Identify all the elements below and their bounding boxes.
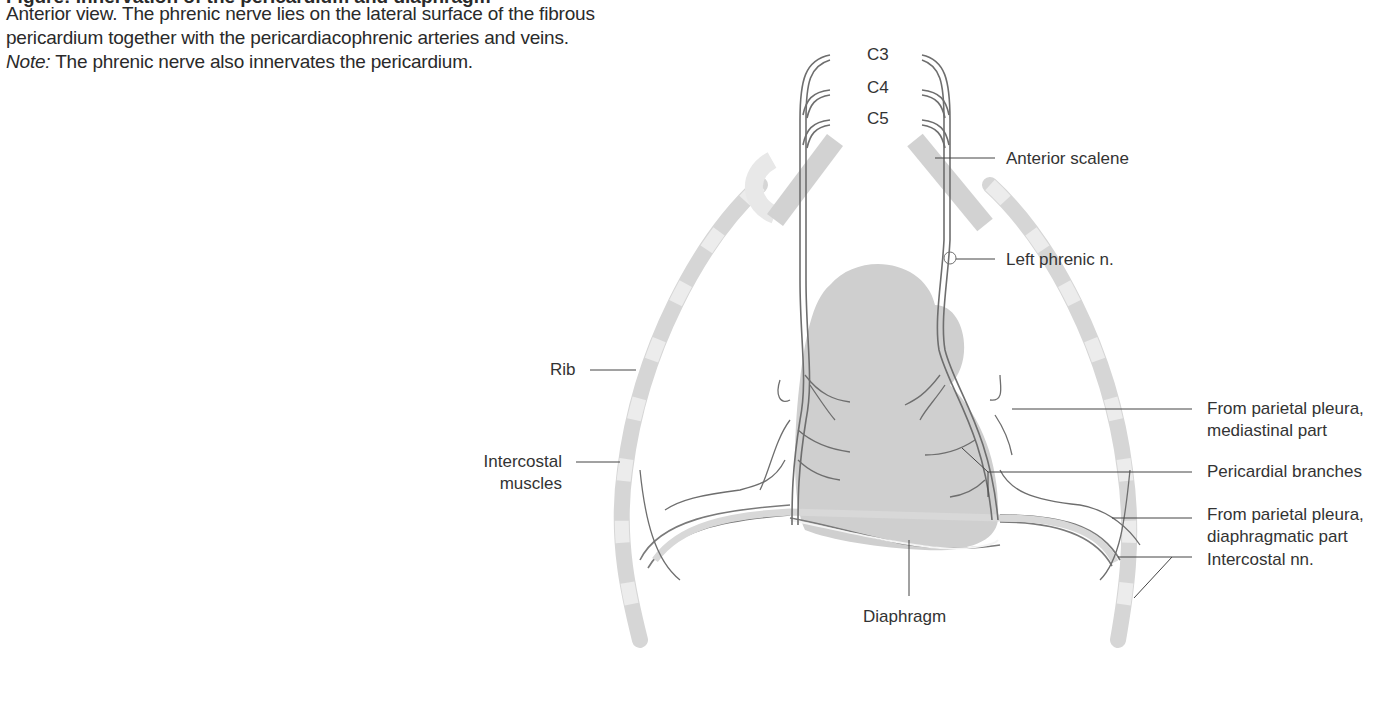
label-c4: C4 — [867, 77, 889, 99]
label-parietal-pleura-mediastinal: From parietal pleura, mediastinal part — [1207, 398, 1364, 442]
label-parietal-mediastinal-line2: mediastinal part — [1207, 420, 1364, 442]
label-intercostal-muscles: Intercostal muscles — [468, 451, 562, 495]
label-parietal-mediastinal-line1: From parietal pleura, — [1207, 398, 1364, 420]
label-anterior-scalene: Anterior scalene — [1006, 148, 1129, 170]
label-intercostal-muscles-line2: muscles — [468, 473, 562, 495]
label-intercostal-nerves: Intercostal nn. — [1207, 549, 1314, 571]
label-pericardial-branches: Pericardial branches — [1207, 461, 1362, 483]
label-c3: C3 — [867, 44, 889, 66]
label-parietal-diaphragmatic-line2: diaphragmatic part — [1207, 526, 1364, 548]
label-rib: Rib — [550, 359, 576, 381]
label-parietal-diaphragmatic-line1: From parietal pleura, — [1207, 504, 1364, 526]
label-parietal-pleura-diaphragmatic: From parietal pleura, diaphragmatic part — [1207, 504, 1364, 548]
phrenic-nerve-diagram — [0, 0, 1392, 706]
label-c5: C5 — [867, 108, 889, 130]
label-left-phrenic-nerve: Left phrenic n. — [1006, 249, 1114, 271]
label-intercostal-muscles-line1: Intercostal — [468, 451, 562, 473]
label-diaphragm: Diaphragm — [863, 606, 946, 628]
